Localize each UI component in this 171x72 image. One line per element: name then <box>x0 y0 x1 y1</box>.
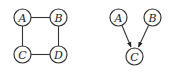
edge-b-to-c <box>139 26 149 48</box>
node-c: C <box>14 46 31 63</box>
node-b: B <box>144 9 161 26</box>
node-a: A <box>14 9 31 26</box>
directed-graph: A B C <box>110 9 161 65</box>
node-c-label: C <box>18 49 27 62</box>
node-c-label: C <box>130 51 139 64</box>
node-b: B <box>50 9 67 26</box>
undirected-graph: A B C D <box>14 9 67 63</box>
graph-diagrams: A B C D A B C <box>0 0 171 72</box>
node-c: C <box>126 48 143 65</box>
node-b-label: B <box>147 12 156 25</box>
edge-a-to-c <box>122 26 131 48</box>
node-a-label: A <box>18 12 27 25</box>
node-d-label: D <box>53 49 63 62</box>
node-a-label: A <box>114 12 123 25</box>
node-a: A <box>110 9 127 26</box>
node-b-label: B <box>53 12 62 25</box>
node-d: D <box>50 46 67 63</box>
